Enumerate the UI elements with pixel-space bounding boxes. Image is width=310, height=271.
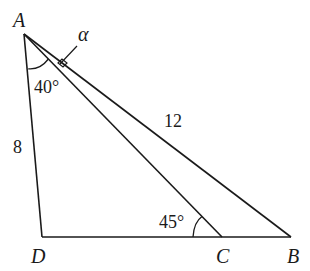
segment-AB (24, 34, 291, 237)
angle-arc-A (28, 59, 48, 69)
segment-AC (24, 34, 222, 237)
point-label-C: C (216, 245, 230, 267)
angle-label-A: 40° (34, 77, 59, 97)
segment-AD (24, 34, 42, 237)
side-length-AB: 12 (164, 111, 182, 131)
point-label-D: D (30, 245, 46, 267)
triangle-diagram: A D C B 8 12 40° 45° α (0, 0, 310, 271)
point-label-A: A (11, 9, 26, 31)
side-length-AD: 8 (13, 137, 22, 157)
alpha-pointer-line (60, 46, 77, 64)
point-label-B: B (287, 245, 299, 267)
angle-arc-C (193, 217, 202, 238)
angle-label-C: 45° (159, 212, 184, 232)
angle-label-alpha: α (78, 23, 89, 45)
